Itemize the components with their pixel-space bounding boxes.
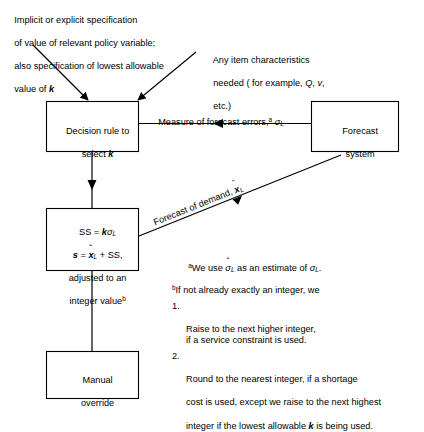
box-decision-rule-var-k: k xyxy=(108,149,113,159)
box-ss-line1-prefix: SS = xyxy=(79,227,102,237)
annotation-policy-specification: Implicit or explicit specification of va… xyxy=(4,4,214,107)
box-ss-hat-accent: ˆ xyxy=(89,244,92,253)
annotation-policy-var-k: k xyxy=(49,84,54,94)
footnote-b-item-1-number: 1. xyxy=(172,301,180,313)
footnote-a: aWe use ˆσL as an estimate of σL. xyxy=(178,252,321,286)
footnote-b: bIf not already exactly an integer, we 1… xyxy=(172,285,424,432)
edge-label-measure-text: Measure of forecast errors, xyxy=(158,117,268,127)
footnote-b-item-2-line2: cost is used, except we raise to the nex… xyxy=(186,397,381,407)
annotation-policy-line-4: value of xyxy=(14,84,49,94)
footnote-b-item-2-line3-pre: integer if the lowest allowable xyxy=(186,421,309,431)
footnote-b-item-2: 2. Round to the nearest integer, if a sh… xyxy=(172,351,424,432)
footnote-a-sigmahat-group: ˆσ xyxy=(225,263,231,274)
annotation-item-line-2: needed ( for example, xyxy=(213,78,305,88)
footnote-b-item-2-line3-post: is being used. xyxy=(314,421,373,431)
footnote-b-item-1-text: Raise to the next higher integer, if a s… xyxy=(186,324,316,346)
box-ss-sigma-sub: L xyxy=(112,230,116,237)
arrowhead-decision-to-ss xyxy=(88,180,97,190)
footnote-a-suffix: . xyxy=(319,263,322,273)
box-ss-footnote-marker-b: b xyxy=(122,295,126,302)
footnote-b-intro: If not already exactly an integer, we xyxy=(176,285,320,295)
footnote-a-prefix: We use xyxy=(192,263,226,273)
annotation-policy-line-1: Implicit or explicit specification xyxy=(14,15,137,25)
edge-label-measure-forecast-errors: Measure of forecast errors,a σL xyxy=(148,106,284,140)
box-forecast-system: Forecast system xyxy=(311,114,399,172)
box-decision-rule-line1: Decision rule to xyxy=(66,126,129,136)
annotation-policy-line-3: also specification of lowest allowable xyxy=(14,61,164,71)
edge-label-measure-sigma-sub: L xyxy=(280,121,284,128)
annotation-policy-line-2: of value of relevant policy variable; xyxy=(14,38,155,48)
footnote-b-item-2-line1: Round to the nearest integer, if a short… xyxy=(186,374,358,384)
footnote-a-middle: as an estimate of xyxy=(235,263,310,273)
box-manual-override-line1: Manual xyxy=(83,375,113,385)
annotation-item-comma2: , xyxy=(322,78,325,88)
box-decision-rule: Decision rule to select k xyxy=(46,114,139,172)
footnote-b-intro-line: bIf not already exactly an integer, we xyxy=(172,285,424,297)
box-ss-line2-tail: + SS, xyxy=(97,250,122,260)
annotation-item-line-1: Any item characteristics xyxy=(213,55,310,65)
box-manual-override: Manual override xyxy=(46,363,139,421)
box-decision-rule-line2-prefix: select xyxy=(82,149,109,159)
box-ss-line3: adjusted to an xyxy=(69,273,127,283)
box-forecast-system-line2: system xyxy=(346,149,375,159)
box-ss-line4: integer value xyxy=(70,296,123,306)
box-manual-override-line2: override xyxy=(81,398,114,408)
box-ss-formula: SS = kσL s = ˆxL + SS, adjusted to an in… xyxy=(46,215,139,319)
footnote-a-hat-accent: ˆ xyxy=(227,257,230,266)
box-forecast-system-line1: Forecast xyxy=(342,126,378,136)
footnote-b-item-2-number: 2. xyxy=(172,351,180,363)
box-ss-equals: = xyxy=(78,250,88,260)
footnote-b-item-1: 1. Raise to the next higher integer, if … xyxy=(172,301,424,347)
box-ss-xhat-group: ˆx xyxy=(88,250,93,262)
